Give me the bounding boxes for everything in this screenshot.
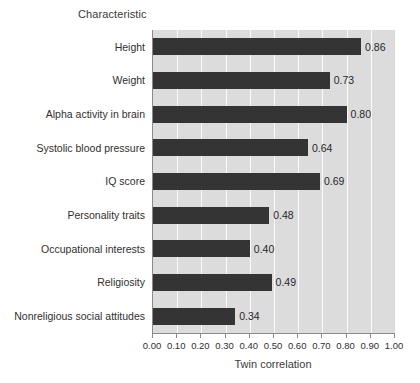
bar-value-label: 0.73 (334, 75, 354, 86)
bar-row[interactable]: 0.80 (153, 97, 395, 131)
category-label: Nonreligious social attitudes (0, 299, 148, 333)
bar-row[interactable]: 0.40 (153, 232, 395, 266)
x-axis-tick (225, 333, 226, 338)
category-label: Occupational interests (0, 232, 148, 266)
bar[interactable] (153, 38, 361, 55)
bar-value-label: 0.80 (351, 109, 371, 120)
x-axis-tick-label: 0.10 (167, 340, 186, 351)
x-axis-tick-label: 0.30 (215, 340, 234, 351)
x-axis-tick-label: 0.90 (361, 340, 380, 351)
category-label: Alpha activity in brain (0, 97, 148, 131)
x-axis-tick (346, 333, 347, 338)
x-axis-tick-label: 1.00 (385, 340, 404, 351)
x-axis-tick-label: 0.40 (240, 340, 259, 351)
x-axis-tick (176, 333, 177, 338)
x-axis-tick-label: 0.80 (336, 340, 355, 351)
x-axis-tick-label: 0.70 (312, 340, 331, 351)
x-axis-tick (249, 333, 250, 338)
x-axis-tick-label: 0.50 (264, 340, 283, 351)
x-axis-tick (394, 333, 395, 338)
bar-row[interactable]: 0.86 (153, 30, 395, 64)
x-axis-tick-label: 0.00 (143, 340, 162, 351)
x-axis-tick (370, 333, 371, 338)
bar-row[interactable]: 0.48 (153, 198, 395, 232)
category-label: IQ score (0, 165, 148, 199)
bar-value-label: 0.49 (276, 277, 296, 288)
category-label: Weight (0, 64, 148, 98)
bar[interactable] (153, 72, 330, 89)
bar-value-label: 0.40 (254, 244, 274, 255)
bar-value-label: 0.69 (324, 176, 344, 187)
category-label: Systolic blood pressure (0, 131, 148, 165)
bar[interactable] (153, 207, 269, 224)
bar-row[interactable]: 0.64 (153, 131, 395, 165)
category-label-list: HeightWeightAlpha activity in brainSysto… (0, 30, 148, 333)
bar[interactable] (153, 106, 347, 123)
bar-row[interactable]: 0.34 (153, 299, 395, 333)
x-axis-tick (321, 333, 322, 338)
bar[interactable] (153, 240, 250, 257)
category-label: Height (0, 30, 148, 64)
bar-chart-figure: Characteristic HeightWeightAlpha activit… (0, 0, 420, 383)
bar-value-label: 0.48 (273, 210, 293, 221)
x-axis-tick (200, 333, 201, 338)
bar[interactable] (153, 274, 272, 291)
x-axis-tick (297, 333, 298, 338)
plot-area: 0.860.730.800.640.690.480.400.490.34 (152, 30, 395, 333)
bar-value-label: 0.86 (365, 42, 385, 53)
x-axis-tick-label: 0.20 (191, 340, 210, 351)
bar-row[interactable]: 0.69 (153, 165, 395, 199)
bar-row[interactable]: 0.73 (153, 64, 395, 98)
bar[interactable] (153, 308, 235, 325)
bar[interactable] (153, 139, 308, 156)
x-axis-title: Twin correlation (152, 358, 394, 370)
bar-row[interactable]: 0.49 (153, 266, 395, 300)
bars-layer: 0.860.730.800.640.690.480.400.490.34 (153, 30, 395, 333)
gridline (395, 30, 396, 333)
bar-value-label: 0.34 (239, 311, 259, 322)
category-label: Religiosity (0, 266, 148, 300)
x-axis-tick (152, 333, 153, 338)
y-axis-title: Characteristic (78, 8, 147, 20)
category-label: Personality traits (0, 198, 148, 232)
x-axis-tick-label: 0.60 (288, 340, 307, 351)
x-axis-tick (273, 333, 274, 338)
bar-value-label: 0.64 (312, 143, 332, 154)
bar[interactable] (153, 173, 320, 190)
